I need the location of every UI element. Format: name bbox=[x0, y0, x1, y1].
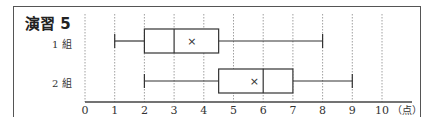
x-tick-label: 9 bbox=[349, 104, 356, 117]
x-axis-unit: （点） bbox=[392, 105, 422, 116]
x-tick-label: 1 bbox=[111, 104, 118, 117]
x-tick-label: 3 bbox=[171, 104, 178, 117]
boxplot-chart: 012345678910（点）×× bbox=[0, 0, 436, 117]
x-tick-label: 6 bbox=[260, 104, 267, 117]
x-tick-label: 7 bbox=[289, 104, 296, 117]
x-tick-label: 5 bbox=[230, 104, 237, 117]
x-tick-label: 8 bbox=[319, 104, 326, 117]
x-tick-label: 4 bbox=[200, 104, 207, 117]
x-tick-label: 0 bbox=[82, 104, 89, 117]
mean-marker: × bbox=[187, 35, 196, 48]
mean-marker: × bbox=[250, 75, 259, 88]
box bbox=[144, 29, 218, 53]
x-tick-label: 10 bbox=[375, 104, 389, 117]
x-tick-label: 2 bbox=[141, 104, 148, 117]
